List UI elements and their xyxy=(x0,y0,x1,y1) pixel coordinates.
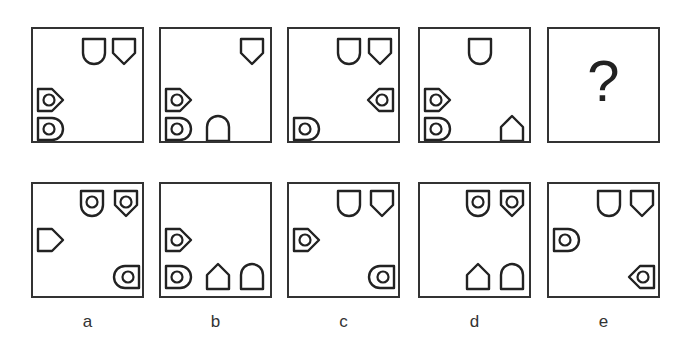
pointed-shield-with-circle-icon xyxy=(294,229,319,251)
pointed-shield-icon xyxy=(631,191,653,216)
option-label-b[interactable]: b xyxy=(159,312,272,332)
pointed-shield-icon xyxy=(501,116,523,141)
rounded-shield-icon xyxy=(338,191,360,216)
pointed-shield-with-circle-icon xyxy=(115,191,137,216)
rounded-shield-with-circle-icon xyxy=(467,191,489,216)
question-panel: ? xyxy=(547,27,660,143)
option-panel-d[interactable] xyxy=(418,182,531,298)
rounded-shield-icon xyxy=(338,39,360,64)
option-panel-e[interactable] xyxy=(547,182,660,298)
rounded-shield-with-circle-icon xyxy=(425,118,450,140)
pointed-shield-icon xyxy=(369,39,391,64)
sequence-panel-2 xyxy=(159,27,272,143)
rounded-shield-with-circle-icon xyxy=(166,118,191,140)
option-panel-c[interactable] xyxy=(287,182,400,298)
sequence-panel-1 xyxy=(31,27,144,143)
pointed-shield-icon xyxy=(241,39,263,64)
rounded-shield-icon xyxy=(598,191,620,216)
pointed-shield-icon xyxy=(371,191,393,216)
option-panel-a[interactable] xyxy=(31,182,144,298)
question-mark: ? xyxy=(549,47,658,114)
rounded-shield-with-circle-icon xyxy=(81,191,103,216)
option-label-d[interactable]: d xyxy=(418,312,531,332)
option-label-a[interactable]: a xyxy=(31,312,144,332)
rounded-shield-icon xyxy=(207,116,229,141)
pointed-shield-icon xyxy=(38,229,63,251)
option-label-e[interactable]: e xyxy=(547,312,660,332)
pointed-shield-with-circle-icon xyxy=(166,229,191,251)
rounded-shield-icon xyxy=(469,39,491,64)
option-label-c[interactable]: c xyxy=(287,312,400,332)
rounded-shield-with-circle-icon xyxy=(294,118,319,140)
rounded-shield-icon xyxy=(241,264,263,289)
rounded-shield-icon xyxy=(83,39,105,64)
pointed-shield-with-circle-icon xyxy=(501,191,523,216)
pointed-shield-icon xyxy=(467,264,489,289)
rounded-shield-with-circle-icon xyxy=(369,266,394,288)
rounded-shield-with-circle-icon xyxy=(554,229,579,251)
rounded-shield-with-circle-icon xyxy=(166,266,191,288)
pointed-shield-with-circle-icon xyxy=(629,266,654,288)
pointed-shield-with-circle-icon xyxy=(368,89,393,111)
option-panel-b[interactable] xyxy=(159,182,272,298)
pointed-shield-icon xyxy=(207,264,229,289)
sequence-panel-4 xyxy=(418,27,531,143)
pointed-shield-with-circle-icon xyxy=(425,89,450,111)
rounded-shield-with-circle-icon xyxy=(38,118,63,140)
pointed-shield-with-circle-icon xyxy=(38,89,63,111)
rounded-shield-with-circle-icon xyxy=(114,266,139,288)
pointed-shield-icon xyxy=(113,39,135,64)
sequence-panel-3 xyxy=(287,27,400,143)
pointed-shield-with-circle-icon xyxy=(166,89,191,111)
rounded-shield-icon xyxy=(501,264,523,289)
